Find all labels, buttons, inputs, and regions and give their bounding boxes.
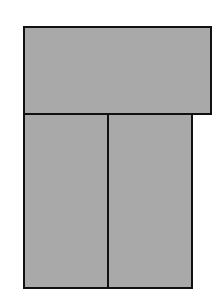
diagram-canvas — [0, 0, 220, 301]
top-rectangle — [23, 26, 212, 115]
bottom-left-rectangle — [23, 113, 109, 289]
bottom-right-rectangle — [107, 113, 193, 289]
